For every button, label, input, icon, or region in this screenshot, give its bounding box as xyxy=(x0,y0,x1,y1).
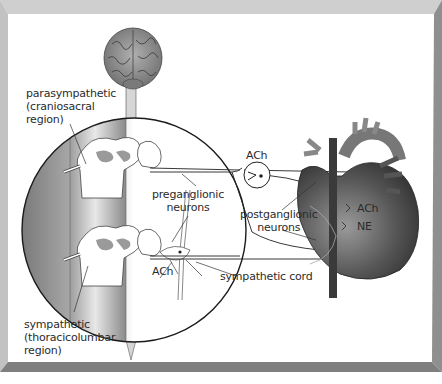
preganglionic-label: preganglionic neurons xyxy=(152,188,224,214)
parasympathetic-label: parasympathetic (craniosacral region) xyxy=(26,87,116,126)
sympathetic-cord-label: sympathetic cord xyxy=(220,270,313,283)
heart-ne-label: NE xyxy=(357,220,372,233)
ach-synapse xyxy=(244,162,270,188)
postganglionic-label: postganglionic neurons xyxy=(240,208,318,234)
heart-ach-label: ACh xyxy=(357,202,378,215)
sympathetic-label: sympathetic (thoracicolumbar region) xyxy=(24,318,115,357)
brain-icon xyxy=(104,28,162,89)
magnified-spinal-section xyxy=(22,110,246,350)
ach-synapse-label: ACh xyxy=(246,149,267,162)
ach-cord-label: ACh xyxy=(152,265,173,278)
